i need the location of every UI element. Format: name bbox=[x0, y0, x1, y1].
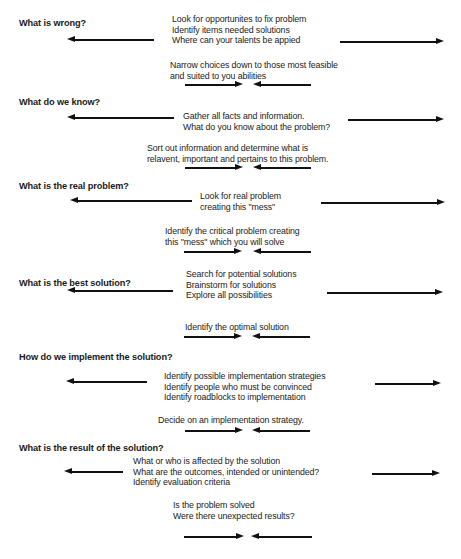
arrow-right-icon bbox=[340, 41, 444, 43]
arrow-left-icon bbox=[253, 167, 311, 169]
arrow-right-icon bbox=[348, 119, 444, 121]
step-6-diverge-text: What or who is affected by the solution … bbox=[133, 456, 319, 488]
arrow-right-icon bbox=[321, 202, 445, 204]
arrow-left-icon bbox=[67, 39, 154, 41]
step-5-question: How do we implement the solution? bbox=[19, 352, 172, 363]
arrow-left-icon bbox=[253, 251, 311, 253]
step-2-converge-text: Sort out information and determine what … bbox=[147, 143, 328, 164]
step-1-question: What is wrong? bbox=[19, 18, 86, 29]
step-1-converge-text: Narrow choices down to those most feasib… bbox=[170, 60, 338, 81]
arrow-right-icon bbox=[184, 336, 242, 338]
step-4-converge-text: Identify the optimal solution bbox=[185, 322, 289, 333]
arrow-right-icon bbox=[372, 473, 440, 475]
arrow-left-icon bbox=[67, 290, 173, 292]
step-6-question: What is the result of the solution? bbox=[19, 443, 164, 454]
arrow-left-icon bbox=[70, 200, 192, 202]
step-5-diverge-text: Identify possible implementation strateg… bbox=[164, 371, 325, 403]
arrow-right-icon bbox=[184, 536, 244, 538]
arrow-right-icon bbox=[185, 84, 243, 86]
step-3-diverge-text: Look for real problem creating this "mes… bbox=[200, 191, 281, 212]
arrow-right-icon bbox=[185, 167, 243, 169]
arrow-right-icon bbox=[184, 251, 242, 253]
step-4-diverge-text: Search for potential solutions Brainstor… bbox=[186, 269, 296, 301]
step-2-diverge-text: Gather all facts and information. What d… bbox=[183, 111, 330, 132]
arrow-left-icon bbox=[64, 471, 123, 473]
arrow-left-icon bbox=[252, 430, 310, 432]
arrow-left-icon bbox=[67, 117, 174, 119]
step-6-converge-text: Is the problem solved Were there unexpec… bbox=[173, 500, 295, 521]
step-3-question: What is the real problem? bbox=[19, 181, 129, 192]
step-3-converge-text: Identify the critical problem creating t… bbox=[165, 226, 300, 247]
arrow-left-icon bbox=[66, 381, 147, 383]
step-2-question: What do we know? bbox=[19, 97, 100, 108]
step-1-diverge-text: Look for opportunites to fix problem Ide… bbox=[172, 14, 306, 46]
arrow-right-icon bbox=[327, 292, 443, 294]
step-5-converge-text: Decide on an implementation strategy. bbox=[158, 415, 304, 426]
arrow-left-icon bbox=[251, 536, 312, 538]
arrow-right-icon bbox=[185, 430, 243, 432]
arrow-left-icon bbox=[252, 336, 310, 338]
arrow-left-icon bbox=[253, 84, 311, 86]
arrow-right-icon bbox=[375, 383, 441, 385]
